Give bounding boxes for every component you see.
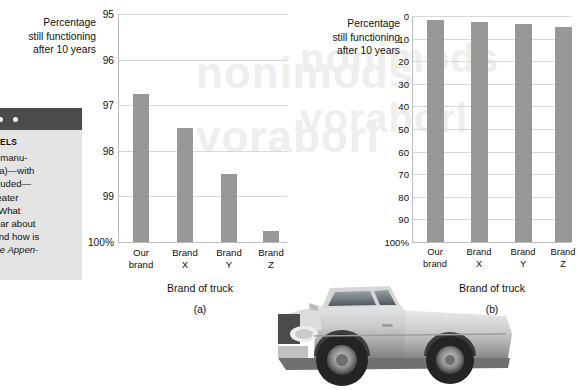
y-axis-tick-label: 0 (404, 11, 409, 22)
y-axis-tick-label: 95 (103, 9, 114, 20)
y-axis-title-line: after 10 years (16, 43, 96, 57)
x-axis-tick-label: Brand Y (216, 247, 242, 270)
gridline (413, 16, 571, 17)
x-axis-tick-label: Brand Z (551, 247, 576, 270)
x-axis-tick-label: Brand Z (258, 247, 284, 270)
bar (427, 20, 444, 242)
chart-panel-b: Percentage still functioning after 10 ye… (300, 0, 577, 310)
bar (555, 27, 572, 242)
y-axis-tick-label: 98 (103, 145, 114, 156)
x-axis-tick-label: Brand X (172, 247, 198, 270)
truck-illustration-svg (278, 272, 533, 390)
y-axis-title-line: still functioning (16, 30, 96, 44)
chart-b-plot-area: 100%9080706050403020100Our brandBrand XB… (412, 16, 571, 243)
gridline (119, 14, 287, 15)
chart-a-y-axis-title: Percentage still functioning after 10 ye… (16, 16, 96, 57)
chart-a-panel-letter: (a) (110, 304, 290, 315)
bar (263, 231, 279, 242)
chart-a-x-axis-label: Brand of truck (110, 282, 290, 294)
y-axis-tick-label: 30 (398, 78, 409, 89)
y-axis-tick-label: 100% (88, 237, 114, 248)
chart-a-plot-area: 100%9998979695Our brandBrand XBrand YBra… (118, 14, 287, 243)
bar (221, 174, 237, 242)
x-axis-tick-label: Brand Y (511, 247, 536, 270)
y-axis-title-line: Percentage (16, 16, 96, 30)
bar (177, 128, 193, 242)
x-axis-tick-label: Our brand (129, 247, 154, 270)
y-axis-tick-label: 90 (398, 214, 409, 225)
y-axis-tick-label: 60 (398, 146, 409, 157)
gridline (119, 60, 287, 61)
truck-photo: Transtock/SuperStock (278, 272, 533, 390)
chart-panel-a: Percentage still functioning after 10 ye… (10, 0, 300, 310)
y-axis-tick-label: 40 (398, 101, 409, 112)
y-axis-tick-label: 10 (398, 33, 409, 44)
y-axis-tick-label: 96 (103, 54, 114, 65)
x-axis-tick-label: Our brand (423, 247, 447, 270)
y-axis-title-line: Percentage (310, 17, 400, 31)
y-axis-title-line: still functioning (310, 31, 400, 45)
bullet-dot-icon (0, 117, 3, 122)
bar (471, 22, 488, 242)
y-axis-tick-label: 50 (398, 124, 409, 135)
chart-b-y-axis-title: Percentage still functioning after 10 ye… (310, 17, 400, 58)
y-axis-tick-label: 99 (103, 191, 114, 202)
y-axis-tick-label: 70 (398, 169, 409, 180)
y-axis-tick-label: 97 (103, 100, 114, 111)
y-axis-tick-label: 100% (384, 237, 409, 248)
y-axis-tick-label: 20 (398, 56, 409, 67)
bar (133, 94, 149, 242)
y-axis-title-line: after 10 years (310, 44, 400, 58)
y-axis-tick-label: 80 (398, 191, 409, 202)
bar (515, 24, 532, 242)
x-axis-tick-label: Brand X (467, 247, 492, 270)
